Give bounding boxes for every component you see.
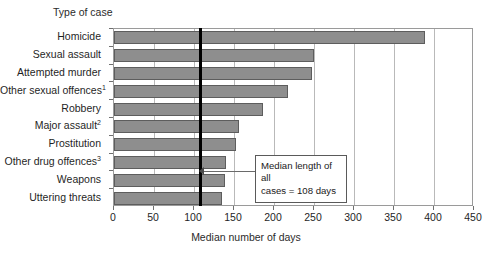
footnote-marker: 3 [97,155,101,162]
x-axis-tick [193,206,194,210]
bar-row [114,154,226,172]
x-axis-tick [473,206,474,210]
bar-row [114,29,425,47]
x-axis-tick-label: 200 [264,211,282,223]
x-axis-tick [393,206,394,210]
x-axis-tick [153,206,154,210]
x-axis-tick [233,206,234,210]
category-label: Homicide [0,31,108,42]
bar [114,103,263,116]
category-label: Major assault2 [0,120,108,131]
category-label: Other sexual offences1 [0,85,108,96]
bar [114,31,425,44]
x-axis-tick [353,206,354,210]
y-axis-tick [109,64,113,65]
y-axis-tick [109,81,113,82]
y-axis-tick [109,46,113,47]
bar [114,156,226,169]
bar [114,174,225,187]
callout-line-2: cases = 108 days [261,185,341,197]
bar-row [114,189,222,207]
y-axis-tick [109,99,113,100]
x-axis-tick-label: 150 [224,211,242,223]
x-axis-tick-label: 300 [344,211,362,223]
y-axis-tick [109,117,113,118]
x-axis-tick [313,206,314,210]
footnote-marker: 1 [102,83,106,90]
chart-figure: Type of case HomicideSexual assaultAttem… [0,0,492,257]
median-callout-box: Median length of all cases = 108 days [255,155,347,203]
callout-line-1: Median length of all [261,160,341,185]
category-label: Weapons [0,174,108,185]
category-label: Prostitution [0,138,108,149]
y-axis-tick [109,135,113,136]
bar-row [114,47,314,65]
x-axis-tick [273,206,274,210]
callout-leader-line [202,171,255,172]
x-axis-tick-label: 0 [110,211,116,223]
x-axis-title: Median number of days [0,231,492,243]
category-label: Uttering threats [0,192,108,203]
bar-row [114,65,312,83]
x-axis-tick-label: 400 [424,211,442,223]
bar [114,67,312,80]
bar-row [114,118,239,136]
footnote-marker: 2 [97,119,101,126]
x-axis-tick-label: 450 [464,211,482,223]
x-axis-tick [113,206,114,210]
category-label: Sexual assault [0,49,108,60]
bar [114,120,239,133]
bar-row [114,136,236,154]
bar-row [114,100,263,118]
x-axis-tick [433,206,434,210]
y-axis-title: Type of case [53,6,113,18]
median-reference-line [199,28,201,206]
y-axis-tick [109,153,113,154]
y-axis-tick [109,28,113,29]
callout-arrow-icon [199,167,204,175]
x-axis-tick-label: 100 [184,211,202,223]
bar [114,49,314,62]
y-axis-tick [109,170,113,171]
bar [114,138,236,151]
bar [114,192,222,205]
x-axis-tick-label: 350 [384,211,402,223]
category-label: Other drug offences3 [0,156,108,167]
category-label: Attempted murder [0,67,108,78]
x-axis-tick-label: 50 [147,211,159,223]
x-axis-tick-label: 250 [304,211,322,223]
category-label: Robbery [0,103,108,114]
y-axis-tick [109,188,113,189]
bar-row [114,171,225,189]
